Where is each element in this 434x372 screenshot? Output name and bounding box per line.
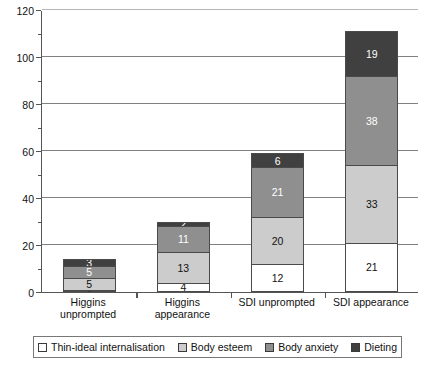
- bar-stack[interactable]: 19383321: [345, 31, 398, 292]
- bar-segment-value: 21: [272, 187, 284, 198]
- legend-swatch: [351, 343, 360, 352]
- bar-segment-value: 5: [86, 267, 92, 278]
- x-axis-label: Higginsunprompted: [38, 296, 138, 320]
- bar-segment[interactable]: 4: [157, 283, 210, 292]
- bar-segment-value: 6: [275, 156, 281, 167]
- y-tick-label: 120: [16, 6, 34, 17]
- stacked-bar-chart: 020406080100120 355121113462120121938332…: [0, 0, 434, 372]
- bar-segment[interactable]: 20: [251, 217, 304, 264]
- y-tick-label: 80: [22, 100, 34, 111]
- bar-segment-value: 38: [366, 116, 378, 127]
- y-tick-label: 40: [22, 194, 34, 205]
- legend-swatch: [38, 343, 47, 352]
- bar-segment-value: 20: [272, 236, 284, 247]
- bar-segment[interactable]: 5: [63, 266, 116, 278]
- legend-item[interactable]: Body esteem: [178, 342, 252, 353]
- x-axis-label-line: Higgins: [132, 296, 232, 308]
- x-axis-label: Higginsappearance: [132, 296, 232, 320]
- bar-segment[interactable]: 12: [251, 264, 304, 292]
- legend-swatch: [265, 343, 274, 352]
- legend-label: Thin-ideal internalisation: [51, 342, 165, 353]
- bars-layer: 3551211134621201219383321: [42, 11, 418, 292]
- y-tick-label: 100: [16, 53, 34, 64]
- bar-segment[interactable]: 21: [251, 167, 304, 216]
- bar-segment-value: 13: [178, 263, 190, 274]
- legend-item[interactable]: Thin-ideal internalisation: [38, 342, 165, 353]
- bar-segment-value: 33: [366, 199, 378, 210]
- bar-stack[interactable]: 3551: [63, 259, 116, 292]
- y-axis: 020406080100120: [0, 11, 41, 293]
- bar-segment[interactable]: 33: [345, 165, 398, 243]
- plot-area: 3551211134621201219383321: [41, 11, 418, 293]
- y-tick-label: 0: [28, 288, 34, 299]
- x-axis-label-line: Higgins: [38, 296, 138, 308]
- x-axis-label-line: SDI unprompted: [227, 296, 327, 308]
- bar-segment[interactable]: 6: [251, 153, 304, 167]
- bar-segment[interactable]: 13: [157, 252, 210, 283]
- y-tick-label: 60: [22, 147, 34, 158]
- bar-segment-value: 1: [86, 290, 92, 292]
- y-tick-label: 20: [22, 241, 34, 252]
- x-axis-label-line: unprompted: [38, 308, 138, 320]
- bar-stack[interactable]: 211134: [157, 222, 210, 292]
- legend-item[interactable]: Dieting: [351, 342, 397, 353]
- bar-segment[interactable]: 21: [345, 243, 398, 292]
- bar-segment[interactable]: 5: [63, 278, 116, 290]
- legend-swatch: [178, 343, 187, 352]
- legend-label: Body esteem: [191, 342, 252, 353]
- chart-legend: Thin-ideal internalisationBody esteemBod…: [33, 336, 402, 358]
- bar-segment-value: 21: [366, 262, 378, 273]
- x-axis-label-line: SDI appearance: [321, 296, 421, 308]
- bar-segment-value: 11: [178, 234, 189, 245]
- gridline: [42, 9, 418, 10]
- bar-segment-value: 19: [366, 49, 378, 60]
- bar-segment[interactable]: 1: [63, 290, 116, 292]
- x-axis-label-line: appearance: [132, 308, 232, 320]
- legend-label: Dieting: [364, 342, 397, 353]
- bar-segment-value: 12: [272, 273, 284, 284]
- bar-stack[interactable]: 6212012: [251, 153, 304, 292]
- x-axis-labels: HigginsunpromptedHigginsappearanceSDI un…: [41, 296, 418, 326]
- legend-label: Body anxiety: [278, 342, 338, 353]
- legend-item[interactable]: Body anxiety: [265, 342, 338, 353]
- bar-segment[interactable]: 11: [157, 226, 210, 252]
- bar-segment-value: 5: [86, 279, 92, 290]
- x-axis-label: SDI unprompted: [227, 296, 327, 308]
- bar-segment-value: 4: [180, 283, 186, 292]
- bar-segment-value: 3: [86, 259, 92, 266]
- bar-segment[interactable]: 3: [63, 259, 116, 266]
- bar-segment[interactable]: 19: [345, 31, 398, 76]
- bar-segment[interactable]: 38: [345, 76, 398, 165]
- x-axis-label: SDI appearance: [321, 296, 421, 308]
